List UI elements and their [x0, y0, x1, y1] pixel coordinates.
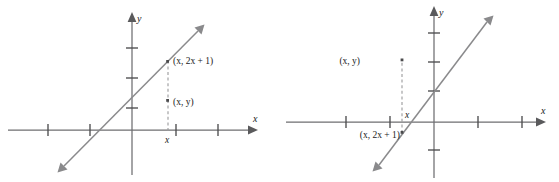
panel-left: (x, 2x + 1) (x, y) x x y — [0, 0, 280, 182]
label-axis-x-right: x — [540, 105, 546, 116]
point-marker-lower-right — [401, 131, 404, 134]
label-point-lower-right: (x, 2x + 1) — [360, 130, 400, 141]
label-axis-y-left: y — [136, 13, 142, 24]
figure-root: (x, 2x + 1) (x, y) x x y — [0, 0, 559, 182]
y-axis-arrowhead-left — [128, 12, 137, 22]
x-axis-arrowhead-right — [536, 118, 546, 127]
label-point-lower-left: (x, y) — [173, 97, 194, 108]
point-marker-lower-left — [166, 99, 169, 102]
panel-right: (x, y) (x, 2x + 1) x x y — [280, 0, 559, 182]
x-axis-arrowhead-left — [248, 126, 258, 135]
label-axis-y-right: y — [438, 7, 444, 18]
label-x-foot-left: x — [164, 135, 170, 145]
label-point-upper-right: (x, y) — [339, 56, 360, 67]
graph-line-right — [379, 22, 487, 165]
label-axis-x-left: x — [252, 113, 258, 124]
y-axis-arrowhead-right — [430, 6, 439, 16]
panel-right-canvas: (x, y) (x, 2x + 1) x x y — [280, 0, 559, 182]
panel-left-canvas: (x, 2x + 1) (x, y) x x y — [0, 0, 280, 182]
point-marker-upper-left — [166, 60, 169, 63]
point-marker-upper-right — [401, 59, 404, 62]
label-point-upper-left: (x, 2x + 1) — [173, 56, 213, 67]
label-x-foot-right: x — [404, 110, 410, 120]
